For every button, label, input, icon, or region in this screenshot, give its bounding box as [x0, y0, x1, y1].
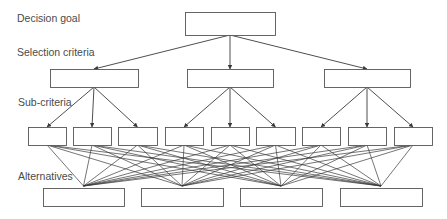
- arrow-goal-to-criterion: [230, 35, 367, 69]
- arrow-criterion-to-subcriterion: [367, 87, 413, 127]
- criterion-box: [325, 70, 411, 88]
- subcriterion-box: [303, 128, 341, 146]
- arrow-criterion-to-subcriterion: [321, 87, 367, 127]
- level-label-decision-goal: Decision goal: [17, 12, 80, 24]
- level-label-selection-criteria: Selection criteria: [17, 46, 95, 58]
- criterion-box: [188, 70, 274, 88]
- subcriterion-box: [212, 128, 250, 146]
- subcriterion-box: [166, 128, 204, 146]
- link-subcriterion-to-alternative: [276, 145, 282, 186]
- link-subcriterion-to-alternative: [381, 145, 413, 186]
- connector-lines: [47, 35, 413, 186]
- alternative-box: [142, 189, 224, 207]
- subcriterion-box: [119, 128, 158, 146]
- alternative-box: [341, 189, 423, 207]
- link-subcriterion-to-alternative: [182, 145, 230, 186]
- alternative-box: [44, 189, 125, 207]
- arrow-criterion-to-subcriterion: [92, 87, 94, 127]
- link-subcriterion-to-alternative: [184, 145, 281, 186]
- arrow-criterion-to-subcriterion: [184, 87, 230, 127]
- link-subcriterion-to-alternative: [84, 145, 138, 186]
- arrow-criterion-to-subcriterion: [230, 87, 276, 127]
- subcriterion-box: [349, 128, 387, 146]
- arrow-goal-to-criterion: [94, 35, 230, 69]
- goal-box: [186, 13, 276, 36]
- alternative-box: [241, 189, 323, 207]
- link-subcriterion-to-alternative: [182, 145, 276, 186]
- subcriterion-box: [257, 128, 296, 146]
- level-label-alternatives: Alternatives: [18, 170, 73, 182]
- criterion-box: [51, 70, 139, 88]
- hierarchy-diagram: [0, 0, 447, 219]
- subcriterion-box: [29, 128, 67, 146]
- subcriterion-box: [74, 128, 112, 146]
- arrow-criterion-to-subcriterion: [94, 87, 138, 127]
- level-label-sub-criteria: Sub-criteria: [18, 96, 72, 108]
- subcriterion-box: [395, 128, 433, 146]
- link-subcriterion-to-alternative: [84, 145, 93, 186]
- link-subcriterion-to-alternative: [182, 145, 184, 186]
